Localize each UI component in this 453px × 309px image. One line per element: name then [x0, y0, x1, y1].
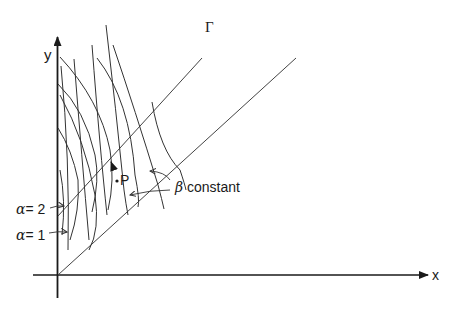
alpha-2-value: = 2 — [25, 201, 45, 217]
alpha-1-label: α= 1 — [16, 228, 45, 242]
x-axis-label: x — [432, 268, 439, 282]
point-p-label: P — [120, 173, 129, 187]
point-p-marker — [115, 179, 118, 182]
alpha-1-value: = 1 — [25, 227, 45, 243]
gamma-label: Γ — [205, 20, 214, 35]
beta-curve-family — [58, 45, 186, 240]
beta-constant-text: constant — [187, 179, 240, 195]
y-axis-label: y — [44, 47, 52, 62]
characteristics-diagram — [0, 0, 453, 309]
beta-constant-label: β constant — [175, 180, 240, 194]
alpha-2-label: α= 2 — [16, 202, 45, 216]
beta-symbol: β — [175, 179, 183, 195]
